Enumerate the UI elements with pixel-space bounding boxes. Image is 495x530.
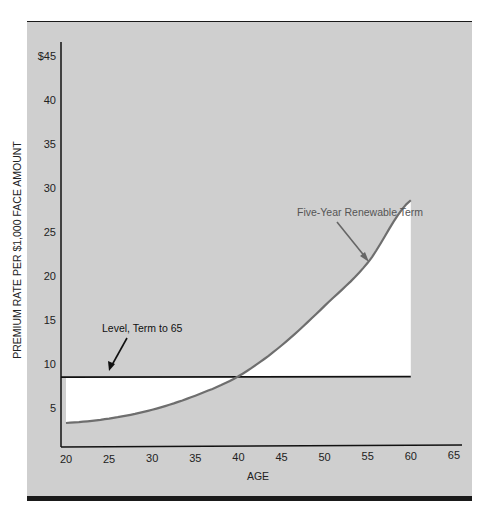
y-tick-10: 10	[44, 358, 56, 370]
x-tick-60: 60	[405, 450, 417, 462]
y-tick-labels: 510152025303540$45	[38, 50, 56, 414]
chart-svg: 20253035404550556065 510152025303540$45 …	[0, 0, 495, 530]
y-axis-label: PREMIUM RATE PER $1,000 FACE AMOUNT	[11, 141, 23, 359]
arrow-term	[337, 222, 366, 258]
x-tick-labels: 20253035404550556065	[60, 449, 460, 465]
y-tick-30: 30	[44, 182, 56, 194]
y-tick-25: 25	[44, 226, 56, 238]
arrow-level	[112, 338, 127, 365]
y-tick-5: 5	[50, 402, 56, 414]
x-tick-45: 45	[275, 451, 287, 463]
y-tick-40: 40	[44, 94, 56, 106]
x-tick-20: 20	[60, 453, 72, 465]
annotation-term: Five-Year Renewable Term	[297, 206, 423, 218]
y-tick-45: $45	[38, 50, 56, 62]
y-tick-15: 15	[44, 314, 56, 326]
x-axis-label: AGE	[247, 470, 269, 482]
x-tick-30: 30	[146, 452, 158, 464]
x-tick-50: 50	[318, 451, 330, 463]
x-tick-25: 25	[103, 453, 115, 465]
y-tick-20: 20	[44, 270, 56, 282]
x-tick-55: 55	[362, 450, 374, 462]
fill-between-curves	[66, 200, 411, 423]
x-tick-35: 35	[189, 452, 201, 464]
x-tick-40: 40	[232, 451, 244, 463]
y-tick-35: 35	[44, 138, 56, 150]
x-axis	[61, 445, 462, 447]
difference-fill	[66, 200, 411, 423]
annotation-level: Level, Term to 65	[102, 322, 183, 334]
x-tick-65: 65	[448, 449, 460, 461]
